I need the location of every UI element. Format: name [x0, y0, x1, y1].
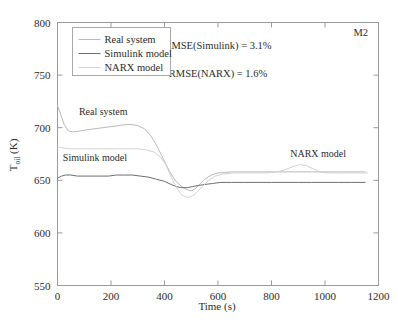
- label-narx-model: NARX model: [290, 148, 346, 159]
- y-axis-title-subscript: oil: [13, 157, 22, 165]
- x-tick-label: 200: [103, 290, 120, 302]
- y-axis-tick-labels: 550600650700750800: [34, 17, 51, 292]
- legend-label-2: NARX model: [105, 62, 164, 73]
- annotations-layer: RMSE(Simulink) = 3.1%RMSE(NARX) = 1.6%: [164, 40, 271, 80]
- label-real-system: Real system: [79, 106, 128, 117]
- x-axis-title: Time (s): [198, 300, 236, 313]
- legend-label-1: Simulink model: [105, 48, 172, 59]
- svg-text:Toil (K): Toil (K): [7, 138, 22, 171]
- chart-figure: 020040060080010001200 550600650700750800…: [0, 0, 398, 322]
- inplot-labels-layer: Real systemSimulink modelNARX model: [63, 106, 346, 163]
- label-simulink-model: Simulink model: [63, 152, 127, 163]
- legend-label-0: Real system: [105, 34, 156, 45]
- x-tick-label: 400: [156, 290, 173, 302]
- y-axis-title-unit: (K): [7, 138, 20, 156]
- x-tick-label: 1000: [314, 290, 337, 302]
- chart-legend: Real systemSimulink modelNARX model: [73, 28, 172, 76]
- y-tick-label: 700: [34, 122, 51, 134]
- chart-svg: 020040060080010001200 550600650700750800…: [0, 0, 398, 322]
- y-tick-label: 550: [34, 280, 51, 292]
- rmse-simulink: RMSE(Simulink) = 3.1%: [164, 40, 271, 52]
- y-axis-title: Toil (K): [7, 138, 22, 171]
- x-tick-label: 0: [55, 290, 61, 302]
- y-tick-label: 800: [34, 17, 51, 29]
- corner-label-m2: M2: [353, 27, 368, 38]
- series-line-simulink-model: [58, 175, 366, 188]
- rmse-narx: RMSE(NARX) = 1.6%: [169, 68, 268, 80]
- y-tick-label: 600: [34, 227, 51, 239]
- y-tick-label: 650: [34, 174, 51, 186]
- x-tick-label: 800: [263, 290, 280, 302]
- y-tick-label: 750: [34, 69, 51, 81]
- x-tick-label: 1200: [368, 290, 391, 302]
